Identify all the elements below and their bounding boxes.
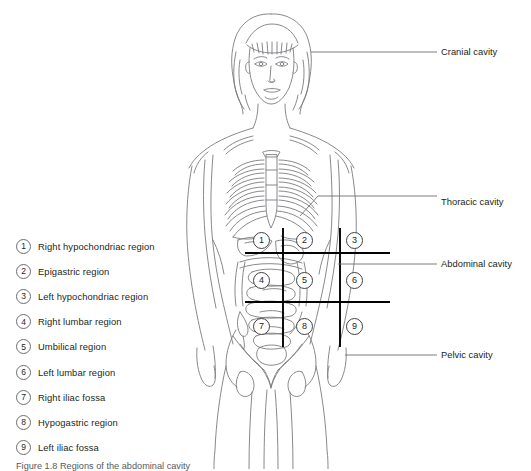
callout-label-abdominal-cavity: Abdominal cavity bbox=[441, 258, 512, 269]
region-badge-left-iliac-fossa[interactable]: 9 bbox=[346, 318, 363, 335]
legend-item-label: Right iliac fossa bbox=[38, 392, 105, 403]
legend-bullet-icon: 2 bbox=[16, 264, 31, 279]
callout-label-thoracic-cavity: Thoracic cavity bbox=[441, 196, 504, 207]
legend-bullet-icon: 5 bbox=[16, 339, 31, 354]
legend-item-right-lumbar[interactable]: 4 Right lumbar region bbox=[16, 309, 221, 334]
callout-leader-lines bbox=[300, 52, 437, 355]
region-badge-number: 5 bbox=[302, 276, 307, 285]
legend-item-label: Right lumbar region bbox=[38, 316, 122, 327]
legend-item-label: Left iliac fossa bbox=[38, 442, 99, 453]
region-badge-right-lumbar[interactable]: 4 bbox=[253, 272, 270, 289]
legend-bullet-icon: 1 bbox=[16, 239, 31, 254]
legend-item-label: Hypogastric region bbox=[38, 417, 118, 428]
legend-item-left-lumbar[interactable]: 6 Left lumbar region bbox=[16, 359, 221, 384]
legend-item-right-iliac-fossa[interactable]: 7 Right iliac fossa bbox=[16, 385, 221, 410]
legend-item-left-hypochondriac[interactable]: 3 Left hypochondriac region bbox=[16, 284, 221, 309]
region-badge-hypogastric[interactable]: 8 bbox=[296, 318, 313, 335]
region-badge-left-hypochondriac[interactable]: 3 bbox=[346, 232, 363, 249]
legend-bullet-icon: 8 bbox=[16, 415, 31, 430]
callout-label-cranial-cavity: Cranial cavity bbox=[441, 46, 497, 57]
legend-bullet-icon: 6 bbox=[16, 365, 31, 380]
legend-item-left-iliac-fossa[interactable]: 9 Left iliac fossa bbox=[16, 435, 221, 460]
leader-line-thoracic bbox=[300, 196, 437, 216]
region-badge-number: 3 bbox=[352, 236, 357, 245]
legend-item-label: Epigastric region bbox=[38, 266, 109, 277]
region-badge-epigastric[interactable]: 2 bbox=[296, 232, 313, 249]
figure-caption: Figure 1.8 Regions of the abdominal cavi… bbox=[16, 461, 190, 471]
legend-item-umbilical[interactable]: 5 Umbilical region bbox=[16, 334, 221, 359]
region-badge-umbilical[interactable]: 5 bbox=[296, 272, 313, 289]
legend-item-right-hypochondriac[interactable]: 1 Right hypochondriac region bbox=[16, 234, 221, 259]
legend-item-hypogastric[interactable]: 8 Hypogastric region bbox=[16, 410, 221, 435]
legend-item-label: Right hypochondriac region bbox=[38, 241, 155, 252]
region-badge-number: 9 bbox=[352, 322, 357, 331]
legend-item-label: Umbilical region bbox=[38, 341, 106, 352]
region-badge-left-lumbar[interactable]: 6 bbox=[346, 272, 363, 289]
region-badge-number: 7 bbox=[259, 322, 264, 331]
region-legend: 1 Right hypochondriac region 2 Epigastri… bbox=[16, 234, 221, 460]
region-badge-number: 2 bbox=[302, 236, 307, 245]
legend-bullet-icon: 4 bbox=[16, 314, 31, 329]
region-badge-right-iliac-fossa[interactable]: 7 bbox=[253, 318, 270, 335]
region-badge-number: 4 bbox=[259, 276, 264, 285]
legend-item-label: Left lumbar region bbox=[38, 367, 115, 378]
region-badge-number: 8 bbox=[302, 322, 307, 331]
region-badge-number: 6 bbox=[352, 276, 357, 285]
callout-label-pelvic-cavity: Pelvic cavity bbox=[441, 349, 493, 360]
legend-bullet-icon: 9 bbox=[16, 440, 31, 455]
legend-bullet-icon: 7 bbox=[16, 390, 31, 405]
legend-bullet-icon: 3 bbox=[16, 289, 31, 304]
legend-item-label: Left hypochondriac region bbox=[38, 291, 148, 302]
legend-item-epigastric[interactable]: 2 Epigastric region bbox=[16, 259, 221, 284]
region-badge-right-hypochondriac[interactable]: 1 bbox=[253, 232, 270, 249]
region-badge-number: 1 bbox=[259, 236, 264, 245]
